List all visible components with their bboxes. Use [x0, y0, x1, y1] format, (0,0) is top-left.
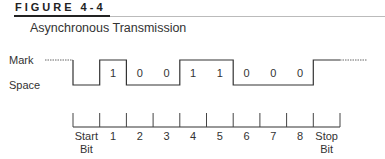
axis-sublabel: Bit: [320, 143, 333, 155]
axis-label: 8: [297, 130, 303, 142]
axis-label: Stop: [315, 130, 338, 142]
axis-label: 7: [270, 130, 276, 142]
axis-label: 2: [137, 130, 143, 142]
bit-value-labels: 10011000: [110, 67, 303, 79]
bit-value: 0: [163, 67, 169, 79]
axis-sublabel: Bit: [80, 143, 93, 155]
axis-label: Start: [75, 130, 98, 142]
bit-value: 0: [270, 67, 276, 79]
axis-label: 5: [217, 130, 223, 142]
mark-level-label: Mark: [9, 54, 34, 66]
space-level-label: Space: [9, 79, 40, 91]
bit-value: 0: [297, 67, 303, 79]
bit-value: 1: [110, 67, 116, 79]
bit-value: 1: [190, 67, 196, 79]
bit-value: 0: [243, 67, 249, 79]
axis-label: 6: [243, 130, 249, 142]
bit-value: 0: [137, 67, 143, 79]
axis-label: 3: [163, 130, 169, 142]
axis-label: 4: [190, 130, 196, 142]
bit-value: 1: [217, 67, 223, 79]
bit-axis-labels: StartBit12345678StopBit: [75, 130, 338, 155]
async-transmission-diagram: Mark Space 10011000 StartBit12345678Stop…: [0, 0, 385, 159]
axis-label: 1: [110, 130, 116, 142]
bit-axis: [73, 113, 340, 127]
